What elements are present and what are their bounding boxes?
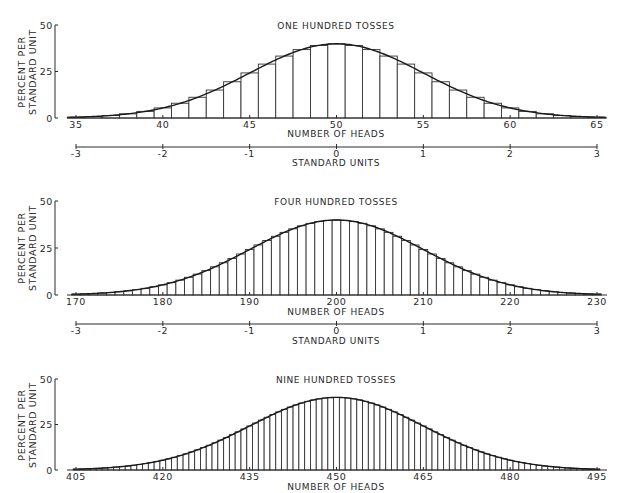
histogram-bar bbox=[341, 220, 350, 295]
x-tick-label: 40 bbox=[156, 119, 169, 130]
histogram-bar bbox=[189, 97, 206, 118]
histogram-bar bbox=[189, 452, 195, 470]
histogram-bar bbox=[419, 249, 428, 295]
histogram-bar bbox=[402, 241, 411, 295]
y-tick-label: 0 bbox=[46, 290, 53, 301]
histogram-bar bbox=[212, 443, 218, 470]
standard-units-tick-label: 2 bbox=[507, 148, 514, 159]
histogram-bar bbox=[206, 90, 223, 118]
y-axis-label-line1: PERCENT PER bbox=[16, 212, 27, 283]
histogram-bar bbox=[270, 415, 276, 470]
histogram-bar bbox=[351, 399, 357, 470]
histogram-bar bbox=[229, 435, 235, 470]
histogram-bar bbox=[287, 407, 293, 470]
histogram-bar bbox=[380, 56, 397, 118]
standard-units-tick-label: -3 bbox=[71, 325, 82, 336]
histogram-bar bbox=[276, 56, 293, 118]
panel-one-hundred-tosses: ONE HUNDRED TOSSES PERCENT PER STANDARD … bbox=[16, 20, 607, 169]
standard-units-tick-label: -3 bbox=[71, 148, 82, 159]
x-axis-title: NUMBER OF HEADS bbox=[287, 129, 384, 139]
standard-units-axis: -3-2-10123 bbox=[71, 321, 601, 336]
panel-title: ONE HUNDRED TOSSES bbox=[277, 21, 394, 31]
histogram-bar bbox=[176, 280, 185, 295]
x-tick-label: 465 bbox=[413, 471, 433, 482]
histogram-bar bbox=[339, 398, 345, 470]
histogram-bar bbox=[380, 407, 386, 470]
y-axis-label-line2: STANDARD UNIT bbox=[27, 382, 38, 468]
x-tick-label: 480 bbox=[500, 471, 520, 482]
standard-units-tick-label: 1 bbox=[420, 148, 427, 159]
histogram-bar bbox=[322, 398, 328, 470]
histogram-bar bbox=[316, 399, 322, 470]
y-tick-label: 25 bbox=[40, 243, 53, 254]
histogram-bar bbox=[386, 409, 392, 470]
histogram-bar bbox=[254, 245, 263, 295]
histogram-bar bbox=[410, 245, 419, 295]
panel-four-hundred-tosses: FOUR HUNDRED TOSSES PERCENT PER STANDARD… bbox=[16, 196, 607, 347]
y-axis-label: PERCENT PER STANDARD UNIT bbox=[16, 29, 38, 115]
histogram-bar bbox=[306, 223, 315, 295]
histogram-bar bbox=[224, 82, 241, 118]
x-tick-label: 45 bbox=[243, 119, 256, 130]
histogram-bar bbox=[345, 45, 362, 118]
histogram-bar bbox=[436, 258, 445, 295]
histogram-bar bbox=[280, 232, 289, 295]
histogram-bar bbox=[409, 420, 415, 470]
y-tick-label: 25 bbox=[40, 419, 53, 430]
y-tick-label: 50 bbox=[40, 196, 53, 207]
coin-toss-histograms-figure: ONE HUNDRED TOSSES PERCENT PER STANDARD … bbox=[0, 0, 622, 493]
histogram-bar bbox=[415, 73, 432, 118]
standard-units-tick-label: 3 bbox=[594, 148, 601, 159]
x-tick-label: 435 bbox=[240, 471, 260, 482]
histogram-bar bbox=[513, 461, 519, 470]
histogram-bar bbox=[367, 226, 376, 295]
histogram-bar bbox=[235, 432, 241, 470]
histogram-bar bbox=[496, 457, 502, 470]
histogram-bar bbox=[183, 454, 189, 470]
x-axis-title: NUMBER OF HEADS bbox=[287, 482, 384, 492]
y-axis-label: PERCENT PER STANDARD UNIT bbox=[16, 382, 38, 468]
histogram-bar bbox=[478, 452, 484, 470]
x-tick-label: 190 bbox=[240, 296, 260, 307]
histogram-bar bbox=[258, 420, 264, 470]
histogram-bar bbox=[247, 426, 253, 470]
histogram-bar bbox=[177, 456, 183, 470]
histogram-bar bbox=[185, 277, 194, 295]
histogram-bar bbox=[449, 90, 466, 118]
x-tick-label: 170 bbox=[66, 296, 86, 307]
histogram-bar bbox=[293, 405, 299, 470]
histogram-bar bbox=[264, 417, 270, 470]
histogram-bar bbox=[305, 401, 311, 470]
histogram-bar bbox=[299, 403, 305, 470]
histogram-bar bbox=[195, 450, 201, 470]
histogram-bars bbox=[67, 44, 605, 118]
histogram-bar bbox=[245, 249, 254, 295]
x-tick-label: 60 bbox=[504, 119, 517, 130]
x-tick-label: 210 bbox=[413, 296, 433, 307]
x-tick-label: 55 bbox=[417, 119, 430, 130]
histogram-bar bbox=[289, 229, 298, 295]
standard-units-tick-label: 0 bbox=[333, 325, 340, 336]
histogram-bar bbox=[350, 222, 359, 295]
histogram-bar bbox=[363, 401, 369, 470]
histogram-bar bbox=[497, 283, 506, 295]
histogram-bar bbox=[193, 274, 202, 295]
histogram-bar bbox=[258, 64, 275, 118]
histogram-bar bbox=[148, 463, 154, 470]
x-axis-title: NUMBER OF HEADS bbox=[287, 307, 384, 317]
standard-units-title: STANDARD UNITS bbox=[292, 336, 380, 346]
histogram-bar bbox=[219, 263, 228, 295]
histogram-bar bbox=[519, 463, 525, 470]
histogram-bar bbox=[415, 423, 421, 470]
histogram-bar bbox=[432, 82, 449, 118]
histogram-bar bbox=[328, 398, 334, 470]
histogram-bar bbox=[323, 220, 332, 295]
histogram-bar bbox=[490, 456, 496, 470]
x-tick-label: 220 bbox=[500, 296, 520, 307]
histogram-bar bbox=[334, 397, 340, 470]
standard-units-tick-label: 2 bbox=[507, 325, 514, 336]
histogram-bar bbox=[438, 435, 444, 470]
histogram-bar bbox=[310, 45, 327, 118]
histogram-bar bbox=[403, 417, 409, 470]
histogram-bar bbox=[484, 454, 490, 470]
